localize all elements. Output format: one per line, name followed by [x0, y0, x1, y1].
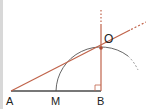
label-m: M: [51, 96, 60, 107]
right-angle-marker: [95, 85, 101, 91]
arc-dashed: [128, 56, 138, 70]
label-a: A: [6, 96, 13, 107]
geometry-diagram: A M B O: [0, 0, 146, 109]
ray-ao-dashed: [131, 22, 146, 30]
point-o-dot: [99, 46, 103, 50]
diagram-canvas: [0, 0, 146, 109]
label-o: O: [104, 33, 113, 45]
label-b: B: [97, 96, 104, 107]
arc-solid: [56, 47, 128, 91]
